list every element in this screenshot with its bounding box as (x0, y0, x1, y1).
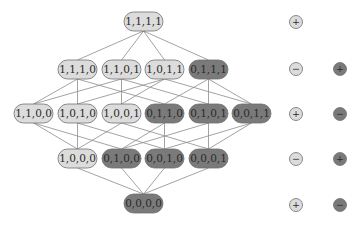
legend-light-sign-1: − (290, 63, 303, 76)
edge-1010-0010 (78, 123, 165, 149)
plus-icon: + (336, 63, 344, 74)
edge-1111-1101 (122, 31, 144, 60)
edge-1000-0000 (78, 168, 144, 194)
legend-dark-sign-3: + (334, 153, 347, 166)
node-label: 1,0,1,0 (59, 107, 96, 119)
lattice-node-0001: 0,0,0,1 (189, 149, 228, 168)
edge-1100-1000 (34, 123, 78, 149)
node-layer: 1,1,1,11,1,1,01,1,0,11,0,1,10,1,1,11,1,0… (14, 12, 271, 213)
lattice-node-1010: 1,0,1,0 (58, 104, 97, 123)
edge-0100-0000 (122, 168, 144, 194)
edge-0110-0100 (122, 123, 165, 149)
legend-light-sign-0: + (290, 16, 303, 29)
lattice-node-0000: 0,0,0,0 (124, 194, 163, 213)
minus-icon: − (336, 199, 344, 210)
lattice-node-1100: 1,1,0,0 (14, 104, 53, 123)
edge-0001-0000 (144, 168, 209, 194)
node-label: 0,0,0,0 (125, 197, 162, 209)
legend-dark-sign-2: − (334, 108, 347, 121)
edge-1011-0011 (165, 79, 252, 104)
node-label: 0,0,1,1 (233, 107, 270, 119)
node-label: 0,0,1,0 (146, 152, 183, 164)
lattice-node-1110: 1,1,1,0 (58, 60, 97, 79)
edge-0011-0001 (209, 123, 252, 149)
sign-legend: +−++−−++− (290, 16, 347, 212)
node-label: 1,0,1,1 (146, 63, 183, 75)
edge-1111-0111 (144, 31, 209, 60)
legend-light-sign-4: + (290, 199, 303, 212)
plus-icon: + (292, 199, 300, 210)
legend-dark-sign-1: + (334, 63, 347, 76)
node-label: 1,0,0,0 (59, 152, 96, 164)
minus-icon: − (292, 153, 300, 164)
lattice-node-1001: 1,0,0,1 (102, 104, 141, 123)
plus-icon: + (292, 16, 300, 27)
legend-dark-sign-4: − (334, 199, 347, 212)
plus-icon: + (292, 108, 300, 119)
node-label: 1,0,0,1 (103, 107, 140, 119)
lattice-node-0111: 0,1,1,1 (189, 60, 228, 79)
edge-1101-0101 (122, 79, 209, 104)
edge-1011-1001 (122, 79, 165, 104)
lattice-node-1000: 1,0,0,0 (58, 149, 97, 168)
edge-0111-0011 (209, 79, 252, 104)
lattice-canvas: 1,1,1,11,1,1,01,1,0,11,0,1,10,1,1,11,1,0… (0, 0, 363, 226)
lattice-node-0010: 0,0,1,0 (145, 149, 184, 168)
lattice-node-1011: 1,0,1,1 (145, 60, 184, 79)
minus-icon: − (336, 108, 344, 119)
legend-light-sign-3: − (290, 153, 303, 166)
node-label: 1,1,0,0 (15, 107, 52, 119)
node-label: 1,1,1,1 (125, 15, 162, 27)
node-label: 0,1,1,0 (146, 107, 183, 119)
node-label: 0,1,1,1 (190, 63, 227, 75)
edge-1111-1110 (78, 31, 144, 60)
lattice-node-1111: 1,1,1,1 (124, 12, 163, 31)
lattice-node-1101: 1,1,0,1 (102, 60, 141, 79)
plus-icon: + (336, 153, 344, 164)
node-label: 1,1,0,1 (103, 63, 140, 75)
legend-light-sign-2: + (290, 108, 303, 121)
node-label: 1,1,1,0 (59, 63, 96, 75)
edge-1001-1000 (78, 123, 122, 149)
node-label: 0,1,0,1 (190, 107, 227, 119)
edge-0011-0010 (165, 123, 252, 149)
lattice-node-0011: 0,0,1,1 (232, 104, 271, 123)
lattice-node-0100: 0,1,0,0 (102, 149, 141, 168)
minus-icon: − (292, 63, 300, 74)
edge-1110-1100 (34, 79, 78, 104)
edge-0111-0110 (165, 79, 209, 104)
node-label: 0,1,0,0 (103, 152, 140, 164)
node-label: 0,0,0,1 (190, 152, 227, 164)
boolean-lattice-diagram: 1,1,1,11,1,1,01,1,0,11,0,1,10,1,1,11,1,0… (0, 0, 363, 226)
lattice-node-0110: 0,1,1,0 (145, 104, 184, 123)
lattice-node-0101: 0,1,0,1 (189, 104, 228, 123)
